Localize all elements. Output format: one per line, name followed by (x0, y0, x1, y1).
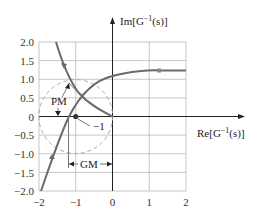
curve-rising (41, 70, 186, 191)
svg-text:−1.0: −1.0 (14, 148, 34, 160)
gm-right-arrow-icon (107, 162, 112, 167)
gm-label: GM (80, 158, 98, 170)
svg-text:0: 0 (110, 196, 116, 208)
svg-text:2.0: 2.0 (20, 36, 34, 48)
svg-text:1.5: 1.5 (20, 55, 34, 67)
svg-text:1: 1 (147, 196, 153, 208)
svg-text:−2: −2 (33, 196, 45, 208)
pm-label: PM (51, 95, 67, 107)
svg-text:0.5: 0.5 (20, 92, 34, 104)
x-axis-title: Re[G−1(s)] (197, 126, 245, 140)
real-axis-arrow-icon (238, 114, 245, 119)
y-tick-labels: 2.0 1.5 1.0 0.5 0 −0.5 −1.0 −1.5 −2.0 (14, 36, 34, 197)
imag-axis-arrow-icon (110, 17, 115, 24)
inverse-nyquist-chart: −1 PM GM 2.0 1.5 1.0 0.5 0 −0.5 −1.0 −1.… (0, 0, 257, 217)
y-axis-title: Im[G−1(s)] (120, 14, 168, 28)
minus-one-label: −1 (93, 120, 105, 132)
x-tick-labels: −2 −1 0 1 2 (33, 196, 189, 208)
svg-text:−0.5: −0.5 (14, 129, 34, 141)
svg-text:−1: −1 (70, 196, 82, 208)
svg-text:2: 2 (183, 196, 189, 208)
svg-text:0: 0 (29, 111, 35, 123)
axes (39, 17, 245, 191)
svg-text:−2.0: −2.0 (14, 185, 34, 197)
gm-left-arrow-icon (69, 162, 74, 167)
pm-arrow-down-icon (55, 111, 61, 116)
minus-one-leader (78, 119, 90, 126)
svg-text:−1.5: −1.5 (14, 167, 34, 179)
critical-point-icon (73, 114, 78, 119)
curve-marker-icon (157, 69, 161, 73)
svg-text:1.0: 1.0 (20, 73, 34, 85)
